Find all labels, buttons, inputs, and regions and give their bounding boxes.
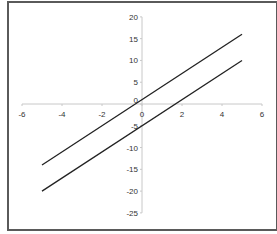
x-tick-label: 2 <box>180 110 185 119</box>
line-chart: -6-4-20246 2015105-5-10-15-20-250 <box>0 0 277 234</box>
y-tick-label: 15 <box>129 35 138 44</box>
y-tick-label: -10 <box>126 144 138 153</box>
y-tick-label: -20 <box>126 187 138 196</box>
x-tick-label: -2 <box>98 110 106 119</box>
y-tick-label: -15 <box>126 165 138 174</box>
x-tick-label: 4 <box>220 110 225 119</box>
x-tick-label: -4 <box>58 110 66 119</box>
x-tick-label: 0 <box>140 110 145 119</box>
y-tick-label: 10 <box>129 56 138 65</box>
x-tick-label: -6 <box>18 110 26 119</box>
y-tick-label: -25 <box>126 209 138 218</box>
y-tick-label: 20 <box>129 13 138 22</box>
x-tick-label: 6 <box>260 110 265 119</box>
y-tick-label: 5 <box>134 78 139 87</box>
